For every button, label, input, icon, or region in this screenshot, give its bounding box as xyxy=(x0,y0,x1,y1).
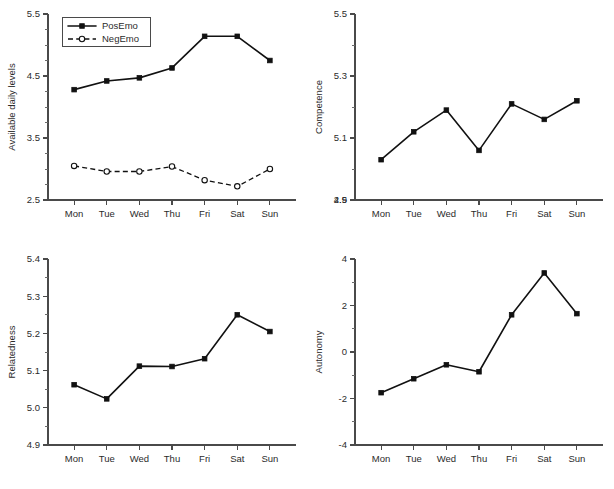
data-point-autonomy xyxy=(411,376,416,381)
series-line-relatedness xyxy=(74,315,270,399)
legend-marker-posemo xyxy=(80,24,85,29)
data-point-autonomy xyxy=(477,369,482,374)
x-tick-label: Sun xyxy=(568,453,585,464)
data-point-negemo xyxy=(202,177,207,182)
panel-2-plot: 4.95.15.35.52.5MonTueWedThuFriSatSunComp… xyxy=(307,0,614,244)
x-tick-label: Wed xyxy=(130,208,149,219)
data-point-negemo xyxy=(104,169,109,174)
y-tick-label: 2 xyxy=(342,300,347,311)
data-point-autonomy xyxy=(509,313,514,318)
data-point-posemo xyxy=(202,34,207,39)
x-tick-label: Tue xyxy=(406,453,422,464)
data-point-negemo xyxy=(137,169,142,174)
panel-relatedness: 4.95.05.15.25.35.4MonTueWedThuFriSatSunR… xyxy=(0,245,307,489)
data-point-posemo xyxy=(170,66,175,71)
data-point-competence xyxy=(444,108,449,113)
four-panel-line-figure: 2.53.54.55.5MonTueWedThuFriSatSunAvailab… xyxy=(0,0,614,489)
legend-marker-negemo xyxy=(79,36,84,41)
data-point-relatedness xyxy=(235,313,240,318)
x-tick-label: Fri xyxy=(199,208,210,219)
x-tick-label: Sat xyxy=(537,453,552,464)
data-point-negemo xyxy=(169,164,174,169)
x-tick-label: Wed xyxy=(437,208,456,219)
x-tick-label: Wed xyxy=(130,453,149,464)
x-tick-label: Tue xyxy=(99,453,115,464)
y-tick-label: 0 xyxy=(342,346,347,357)
x-tick-label: Mon xyxy=(372,453,390,464)
data-point-competence xyxy=(509,102,514,107)
data-point-relatedness xyxy=(72,382,77,387)
x-tick-label: Thu xyxy=(471,208,487,219)
data-point-autonomy xyxy=(379,390,384,395)
x-tick-label: Fri xyxy=(199,453,210,464)
y-tick-label: 5.1 xyxy=(334,132,347,143)
x-tick-label: Fri xyxy=(506,453,517,464)
y-tick-label: 5.3 xyxy=(334,70,347,81)
y-tick-label: 4 xyxy=(342,253,347,264)
y-tick-label: 5.0 xyxy=(27,402,40,413)
panel-1-plot: 2.53.54.55.5MonTueWedThuFriSatSunAvailab… xyxy=(0,0,307,244)
panel-available-daily-levels: 2.53.54.55.5MonTueWedThuFriSatSunAvailab… xyxy=(0,0,307,244)
x-tick-label: Sat xyxy=(537,208,552,219)
y-axis-title: Available daily levels xyxy=(6,63,17,151)
y-axis-break-label: 2.5 xyxy=(334,194,347,205)
x-tick-label: Sat xyxy=(230,208,245,219)
y-tick-label: 5.5 xyxy=(334,8,347,19)
x-tick-label: Mon xyxy=(372,208,390,219)
x-tick-label: Sun xyxy=(568,208,585,219)
y-tick-label: 4.5 xyxy=(27,70,40,81)
panel-4-plot: -4-2024MonTueWedThuFriSatSunAutonomy xyxy=(307,245,614,489)
y-axis-title: Competence xyxy=(313,80,324,134)
legend-label-posemo: PosEmo xyxy=(102,20,138,31)
y-tick-label: 5.3 xyxy=(27,291,40,302)
data-point-relatedness xyxy=(104,397,109,402)
data-point-negemo xyxy=(267,166,272,171)
data-point-posemo xyxy=(104,79,109,84)
y-tick-label: 5.2 xyxy=(27,328,40,339)
data-point-competence xyxy=(477,148,482,153)
x-tick-label: Wed xyxy=(437,453,456,464)
y-tick-label: 5.4 xyxy=(27,253,40,264)
x-tick-label: Mon xyxy=(65,453,83,464)
x-tick-label: Sat xyxy=(230,453,245,464)
data-point-negemo xyxy=(235,184,240,189)
y-tick-label: -4 xyxy=(339,439,347,450)
y-tick-label: -2 xyxy=(339,393,347,404)
data-point-competence xyxy=(411,130,416,135)
data-point-negemo xyxy=(71,163,76,168)
data-point-posemo xyxy=(235,34,240,39)
x-tick-label: Sun xyxy=(261,453,278,464)
legend-label-negemo: NegEmo xyxy=(102,33,139,44)
y-axis-title: Autonomy xyxy=(313,330,324,373)
data-point-competence xyxy=(575,99,580,104)
data-point-posemo xyxy=(137,76,142,81)
panel-autonomy: -4-2024MonTueWedThuFriSatSunAutonomy xyxy=(307,245,614,489)
data-point-relatedness xyxy=(170,364,175,369)
x-tick-label: Thu xyxy=(164,453,180,464)
y-tick-label: 3.5 xyxy=(27,132,40,143)
y-tick-label: 5.1 xyxy=(27,365,40,376)
y-axis-title: Relatedness xyxy=(6,325,17,378)
series-line-autonomy xyxy=(381,273,577,393)
x-tick-label: Tue xyxy=(406,208,422,219)
data-point-autonomy xyxy=(575,311,580,316)
data-point-autonomy xyxy=(542,271,547,276)
x-tick-label: Thu xyxy=(164,208,180,219)
x-tick-label: Mon xyxy=(65,208,83,219)
y-tick-label: 2.5 xyxy=(27,194,40,205)
data-point-posemo xyxy=(72,87,77,92)
y-tick-label: 5.5 xyxy=(27,8,40,19)
data-point-posemo xyxy=(268,58,273,63)
x-tick-label: Tue xyxy=(99,208,115,219)
data-point-relatedness xyxy=(202,356,207,361)
data-point-relatedness xyxy=(268,329,273,334)
panel-3-plot: 4.95.05.15.25.35.4MonTueWedThuFriSatSunR… xyxy=(0,245,307,489)
data-point-autonomy xyxy=(444,362,449,367)
x-tick-label: Fri xyxy=(506,208,517,219)
panel-competence: 4.95.15.35.52.5MonTueWedThuFriSatSunComp… xyxy=(307,0,614,244)
y-tick-label: 4.9 xyxy=(27,439,40,450)
x-tick-label: Sun xyxy=(261,208,278,219)
x-tick-label: Thu xyxy=(471,453,487,464)
data-point-relatedness xyxy=(137,364,142,369)
data-point-competence xyxy=(379,157,384,162)
